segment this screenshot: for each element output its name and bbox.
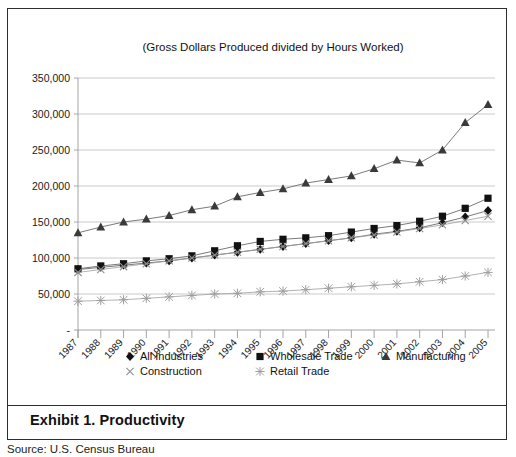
exhibit-caption: Exhibit 1. Productivity (30, 412, 185, 428)
y-axis-tick-label: 200,000 (32, 180, 70, 192)
x-axis-tick-label: 1989 (102, 337, 126, 361)
data-point-star (119, 295, 128, 304)
exhibit-caption-band: Exhibit 1. Productivity (8, 405, 506, 439)
data-point-triangle (370, 164, 379, 172)
data-point-star (483, 268, 492, 277)
productivity-chart: (Gross Dollars Produced divided by Hours… (8, 9, 506, 406)
legend-item-retail-trade[interactable]: Retail Trade (255, 365, 329, 377)
y-axis-tick-label: 350,000 (32, 72, 70, 84)
source-note: Source: U.S. Census Bureau (7, 443, 155, 455)
y-axis-tick-label: 50,000 (38, 288, 70, 300)
y-axis-tick-label: 100,000 (32, 252, 70, 264)
legend-label: Manufacturing (396, 350, 466, 362)
data-point-star (392, 279, 401, 288)
data-point-square (74, 265, 81, 272)
series-manufacturing (74, 100, 493, 236)
data-point-star (461, 271, 470, 280)
y-axis-tick-label: 250,000 (32, 144, 70, 156)
data-point-square (256, 353, 263, 360)
data-point-square (439, 213, 446, 220)
data-point-square (462, 205, 469, 212)
data-point-star (187, 291, 196, 300)
exhibit-frame: (Gross Dollars Produced divided by Hours… (7, 8, 507, 440)
data-point-star (96, 296, 105, 305)
data-point-square (234, 242, 241, 249)
data-point-star (255, 367, 264, 376)
x-axis-tick-label: 1994 (216, 337, 240, 361)
y-axis-tick-label: 150,000 (32, 216, 70, 228)
data-point-star (301, 285, 310, 294)
data-point-square (257, 238, 264, 245)
legend-item-construction[interactable]: Construction (126, 365, 201, 377)
legend-label: Wholesale Trade (270, 350, 353, 362)
chart-canvas: (Gross Dollars Produced divided by Hours… (8, 9, 506, 406)
data-point-star (415, 277, 424, 286)
data-point-square (279, 236, 286, 243)
data-point-star (233, 289, 242, 298)
legend-label: All Industries (140, 350, 203, 362)
series-wholesale-trade (74, 195, 491, 273)
data-point-star (324, 284, 333, 293)
data-point-triangle (210, 202, 219, 210)
series-retail-trade (73, 268, 492, 306)
series-line (78, 105, 488, 233)
data-point-star (370, 281, 379, 290)
x-axis-tick-label: 1987 (56, 337, 80, 361)
data-point-star (347, 282, 356, 291)
data-point-star (256, 287, 265, 296)
data-point-square (97, 262, 104, 269)
data-point-triangle (461, 118, 470, 126)
legend-label: Retail Trade (270, 365, 329, 377)
data-point-star (438, 275, 447, 284)
data-point-square (393, 222, 400, 229)
data-point-star (278, 287, 287, 296)
y-axis-ticks-group: -50,000100,000150,000200,000250,000300,0… (32, 72, 78, 336)
legend-label: Construction (140, 365, 202, 377)
chart-legend: All IndustriesWholesale TradeManufacturi… (126, 350, 466, 377)
data-point-square (371, 225, 378, 232)
screenshot-page: (Gross Dollars Produced divided by Hours… (0, 0, 516, 457)
data-point-triangle (484, 100, 493, 108)
data-point-star (210, 289, 219, 298)
data-point-star (165, 292, 174, 301)
legend-item-manufacturing[interactable]: Manufacturing (382, 350, 466, 362)
data-series-group (73, 100, 492, 306)
x-axis-tick-label: 2005 (466, 337, 490, 361)
x-axis-tick-label: 2000 (352, 337, 376, 361)
data-point-triangle (392, 155, 401, 163)
data-point-cross (126, 368, 133, 375)
chart-title-group: (Gross Dollars Produced divided by Hours… (142, 41, 403, 53)
data-point-square (484, 195, 491, 202)
chart-title: (Gross Dollars Produced divided by Hours… (142, 41, 403, 53)
data-point-square (416, 218, 423, 225)
legend-item-wholesale-trade[interactable]: Wholesale Trade (256, 350, 352, 362)
y-axis-tick-label: 300,000 (32, 108, 70, 120)
y-axis-tick-label: - (67, 324, 71, 336)
x-axis-tick-label: 1988 (79, 337, 103, 361)
data-point-star (142, 294, 151, 303)
data-point-star (73, 297, 82, 306)
